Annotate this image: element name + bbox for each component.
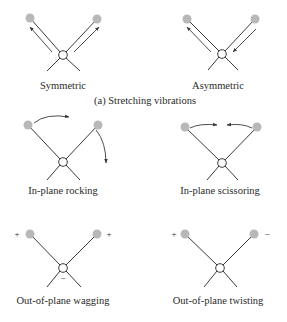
central-atom-icon (218, 159, 227, 168)
curved-arrow-inward-left-icon (190, 124, 217, 128)
central-atom-icon (59, 158, 68, 167)
hydrogen-atom-icon (183, 15, 192, 24)
mode-wagging-diagram: + + − (14, 229, 111, 287)
hydrogen-atom-icon (181, 230, 190, 239)
vibration-modes-figure: Symmetric Asymmetric (a) Stretching vibr… (0, 0, 287, 322)
mode-label-asymmetric: Asymmetric (192, 80, 244, 91)
curved-arrow-inward-right-icon (227, 124, 252, 128)
mode-symmetric-diagram (26, 14, 102, 72)
arrow-in-right-icon (233, 29, 256, 52)
section-caption: (a) Stretching vibrations (94, 95, 196, 107)
hydrogen-atom-icon (181, 123, 190, 132)
mode-label-wagging: Out-of-plane wagging (16, 295, 110, 306)
hydrogen-atom-icon (94, 121, 103, 130)
hydrogen-atom-icon (253, 123, 262, 132)
mode-label-scissoring: In-plane scissoring (180, 185, 260, 196)
curved-arrow-down-icon (96, 130, 106, 163)
mode-asymmetric-diagram (183, 15, 260, 71)
mode-twisting-diagram: + − (171, 229, 269, 287)
hydrogen-atom-icon (93, 15, 102, 24)
mode-scissoring-diagram (181, 123, 262, 181)
curved-arrow-right-icon (34, 116, 69, 123)
hydrogen-atom-icon (26, 230, 35, 239)
central-atom-icon (216, 264, 225, 273)
hydrogen-atom-icon (93, 230, 102, 239)
central-atom-icon (59, 264, 68, 273)
mode-label-rocking: In-plane rocking (28, 185, 98, 196)
hydrogen-atom-icon (24, 121, 33, 130)
hydrogen-atom-icon (26, 14, 35, 23)
minus-sign-center: − (60, 273, 65, 283)
central-atom-icon (59, 51, 68, 60)
central-atom-icon (218, 50, 227, 59)
hydrogen-atom-icon (251, 15, 260, 24)
plus-sign-left: + (171, 229, 176, 239)
mode-label-twisting: Out-of-plane twisting (173, 295, 264, 306)
hydrogen-atom-icon (250, 230, 259, 239)
mode-label-symmetric: Symmetric (40, 80, 86, 91)
plus-sign-right: + (106, 229, 111, 239)
mode-rocking-diagram (24, 116, 107, 180)
minus-sign-right: − (264, 229, 269, 239)
plus-sign-left: + (14, 229, 19, 239)
